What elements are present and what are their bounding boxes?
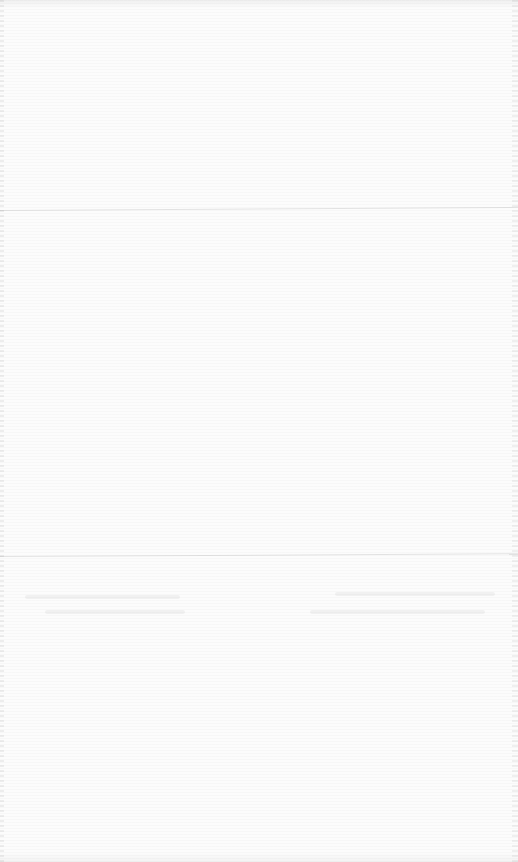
right-scan-edge — [512, 0, 518, 862]
left-scan-edge — [0, 0, 4, 862]
bottom-scan-shadow — [0, 852, 518, 862]
faded-text-line — [310, 610, 485, 614]
faded-text-line — [335, 592, 495, 596]
blank-document-page — [0, 0, 518, 862]
top-scan-shadow — [0, 0, 518, 8]
faded-text-line — [45, 610, 185, 614]
horizontal-rule — [0, 207, 518, 211]
horizontal-rule — [0, 553, 518, 557]
faded-text-line — [25, 595, 180, 599]
